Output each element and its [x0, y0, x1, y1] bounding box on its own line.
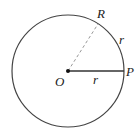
label-point-p: P	[125, 64, 134, 79]
radian-diagram: O P R r r	[0, 0, 139, 131]
label-point-r: R	[96, 6, 105, 21]
label-center-o: O	[55, 74, 65, 89]
dashed-radius-to-r	[68, 24, 98, 71]
label-radius-r: r	[93, 72, 99, 87]
center-point	[66, 69, 70, 73]
label-arc-r: r	[119, 32, 125, 47]
